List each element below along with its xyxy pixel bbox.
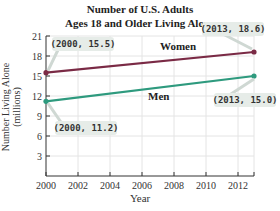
- series-label-women: Women: [160, 40, 196, 52]
- y-axis-label: Number Living Alone (millions): [0, 52, 22, 162]
- y-axis-title: Number Living Alone: [0, 52, 11, 162]
- chart-plot: 369121518212000200220042006200820102012W…: [0, 0, 280, 211]
- callout-men-2013: (2013, 15.0): [212, 95, 277, 105]
- data-point: [43, 99, 48, 104]
- series-line-women: [46, 52, 254, 73]
- x-tick-label: 2012: [228, 180, 248, 191]
- x-tick-label: 2000: [36, 180, 56, 191]
- x-tick-label: 2002: [68, 180, 88, 191]
- series-label-men: Men: [148, 90, 169, 102]
- x-tick-label: 2010: [196, 180, 216, 191]
- x-tick-label: 2006: [132, 180, 152, 191]
- y-tick-label: 3: [37, 151, 42, 162]
- callout-women-2013: (2013, 18.6): [200, 24, 265, 34]
- y-tick-label: 21: [32, 31, 42, 42]
- x-tick-label: 2004: [100, 180, 120, 191]
- y-tick-label: 6: [37, 131, 42, 142]
- callout-women-2000: (2000, 15.5): [50, 39, 115, 49]
- y-tick-label: 9: [37, 111, 42, 122]
- y-tick-label: 15: [32, 71, 42, 82]
- data-point: [43, 70, 48, 75]
- x-axis-label: Year: [130, 192, 150, 204]
- callout-men-2000: (2000, 11.2): [53, 123, 118, 133]
- data-point: [251, 49, 256, 54]
- data-point: [251, 73, 256, 78]
- x-tick-label: 2008: [164, 180, 184, 191]
- y-axis-units: (millions): [11, 52, 22, 162]
- y-tick-label: 18: [32, 51, 42, 62]
- y-tick-label: 12: [32, 91, 42, 102]
